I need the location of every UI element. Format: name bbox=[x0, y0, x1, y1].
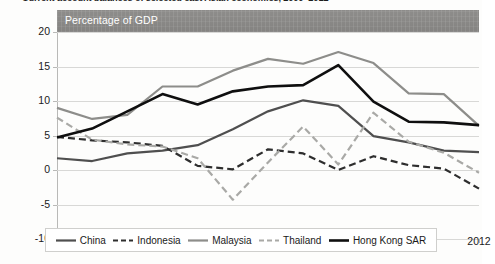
y-tick-label: -5 bbox=[16, 198, 50, 210]
plot-area: 2000200220042006200820102012 bbox=[57, 32, 479, 239]
line-solid-icon bbox=[188, 236, 208, 245]
legend-label: China bbox=[80, 235, 106, 246]
legend-item-china[interactable]: China bbox=[56, 235, 106, 246]
x-tick-label: 2012 bbox=[457, 235, 495, 247]
legend-item-hong-kong-sar[interactable]: Hong Kong SAR bbox=[329, 235, 426, 246]
y-tick-mark bbox=[53, 32, 57, 33]
unit-label: Percentage of GDP bbox=[65, 14, 158, 26]
y-tick-mark bbox=[53, 205, 57, 206]
legend-label: Malaysia bbox=[212, 235, 251, 246]
line-solid-icon bbox=[329, 236, 349, 245]
legend-item-thailand[interactable]: Thailand bbox=[259, 235, 321, 246]
y-tick-label: 0 bbox=[16, 163, 50, 175]
y-tick-label: 20 bbox=[16, 25, 50, 37]
legend-label: Thailand bbox=[283, 235, 321, 246]
y-tick-mark bbox=[53, 101, 57, 102]
line-dashed-icon bbox=[259, 236, 279, 245]
legend-item-malaysia[interactable]: Malaysia bbox=[188, 235, 251, 246]
y-tick-label: 5 bbox=[16, 129, 50, 141]
series-line-thailand bbox=[57, 113, 479, 200]
y-tick-label: 15 bbox=[16, 60, 50, 72]
unit-banner: Percentage of GDP bbox=[57, 10, 479, 32]
y-tick-label: 10 bbox=[16, 94, 50, 106]
y-tick-mark bbox=[53, 136, 57, 137]
legend-label: Hong Kong SAR bbox=[353, 235, 426, 246]
series-line-china bbox=[57, 100, 479, 161]
chart-legend: ChinaIndonesiaMalaysiaThailandHong Kong … bbox=[45, 228, 437, 252]
y-tick-mark bbox=[53, 67, 57, 68]
legend-label: Indonesia bbox=[137, 235, 180, 246]
series-line-hong-kong-sar bbox=[57, 65, 479, 137]
legend-item-indonesia[interactable]: Indonesia bbox=[113, 235, 180, 246]
line-solid-icon bbox=[56, 236, 76, 245]
series-layer bbox=[57, 32, 479, 239]
y-tick-mark bbox=[53, 170, 57, 171]
figure-title: Current account balances of selected eas… bbox=[22, 0, 462, 3]
line-dashed-icon bbox=[113, 236, 133, 245]
